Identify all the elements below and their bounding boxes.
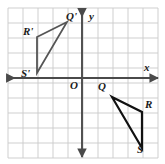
vertex-label-q-prime: Q' <box>66 11 77 22</box>
triangle-preimage <box>112 97 142 148</box>
x-axis-label: x <box>144 62 150 73</box>
coordinate-plane-figure: Q' R' S' Q R S O x y <box>0 0 165 164</box>
vertex-label-s: S <box>137 144 143 155</box>
vertex-label-s-prime: S' <box>21 68 30 79</box>
vertex-label-q: Q <box>98 81 106 92</box>
origin-label: O <box>70 80 78 91</box>
vertex-label-r-prime: R' <box>23 26 33 37</box>
y-axis-label: y <box>89 11 94 22</box>
vertex-label-r: R <box>145 99 152 110</box>
triangle-image <box>37 22 67 73</box>
